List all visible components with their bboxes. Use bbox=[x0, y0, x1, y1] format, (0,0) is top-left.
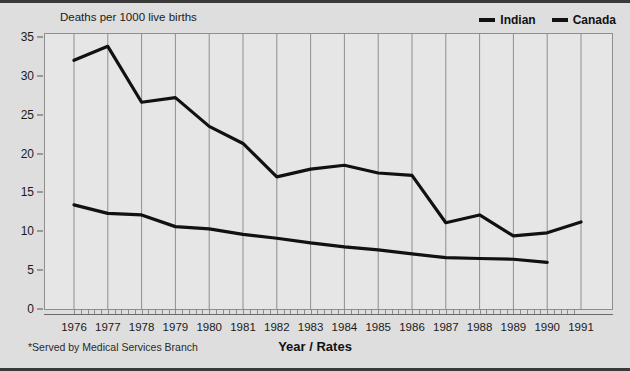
x-minor-tick bbox=[297, 309, 298, 314]
x-minor-tick bbox=[121, 309, 122, 314]
x-minor-tick bbox=[405, 309, 406, 314]
x-minor-tick bbox=[88, 309, 89, 314]
legend-label-indian: Indian bbox=[500, 13, 535, 27]
x-minor-tick bbox=[567, 309, 568, 314]
x-minor-tick bbox=[439, 309, 440, 314]
x-minor-tick bbox=[270, 309, 271, 314]
y-tick-label: 5 bbox=[4, 263, 34, 277]
x-minor-tick bbox=[419, 309, 420, 314]
y-tick-label: 35 bbox=[4, 30, 34, 44]
x-minor-tick bbox=[358, 309, 359, 314]
x-minor-tick bbox=[459, 309, 460, 314]
x-minor-tick bbox=[311, 309, 312, 314]
x-minor-tick bbox=[338, 309, 339, 314]
x-tick-label: 1987 bbox=[433, 321, 459, 333]
y-tick-mark bbox=[37, 192, 43, 193]
x-minor-tick bbox=[162, 309, 163, 314]
plot-area bbox=[44, 33, 613, 310]
x-minor-tick bbox=[540, 309, 541, 314]
y-tick-mark bbox=[37, 114, 43, 115]
x-tick-label: 1981 bbox=[230, 321, 256, 333]
x-tick-label: 1978 bbox=[129, 321, 155, 333]
x-minor-tick bbox=[257, 309, 258, 314]
x-minor-tick bbox=[534, 309, 535, 314]
legend-item-canada: Canada bbox=[552, 13, 616, 27]
x-minor-tick bbox=[182, 309, 183, 314]
x-minor-tick bbox=[243, 309, 244, 314]
chart-legend: Indian Canada bbox=[479, 13, 616, 27]
y-tick-label: 10 bbox=[4, 224, 34, 238]
x-minor-tick bbox=[81, 309, 82, 314]
x-tick-label: 1979 bbox=[163, 321, 189, 333]
x-minor-tick bbox=[155, 309, 156, 314]
x-minor-tick bbox=[486, 309, 487, 314]
legend-swatch-icon bbox=[552, 18, 568, 22]
x-minor-tick bbox=[412, 309, 413, 314]
x-minor-tick bbox=[277, 309, 278, 314]
x-minor-tick bbox=[331, 309, 332, 314]
x-minor-tick bbox=[466, 309, 467, 314]
x-minor-tick bbox=[304, 309, 305, 314]
x-minor-tick bbox=[547, 309, 548, 314]
x-minor-tick bbox=[513, 309, 514, 314]
x-tick-label: 1991 bbox=[568, 321, 594, 333]
y-tick-label: 30 bbox=[4, 69, 34, 83]
y-tick-label: 0 bbox=[4, 302, 34, 316]
x-minor-tick bbox=[223, 309, 224, 314]
x-minor-tick bbox=[108, 309, 109, 314]
x-minor-tick bbox=[175, 309, 176, 314]
x-minor-tick bbox=[189, 309, 190, 314]
x-minor-tick bbox=[554, 309, 555, 314]
x-minor-tick bbox=[507, 309, 508, 314]
x-minor-tick bbox=[101, 309, 102, 314]
x-minor-tick bbox=[74, 309, 75, 314]
x-tick-label: 1983 bbox=[298, 321, 324, 333]
x-minor-tick bbox=[432, 309, 433, 314]
x-minor-tick bbox=[196, 309, 197, 314]
y-tick-label: 25 bbox=[4, 108, 34, 122]
x-minor-tick bbox=[250, 309, 251, 314]
y-tick-mark bbox=[37, 309, 43, 310]
x-tick-label: 1977 bbox=[95, 321, 121, 333]
x-minor-tick bbox=[128, 309, 129, 314]
x-minor-tick bbox=[520, 309, 521, 314]
x-minor-tick bbox=[202, 309, 203, 314]
x-minor-tick bbox=[500, 309, 501, 314]
plot-canvas bbox=[45, 34, 612, 309]
y-tick-mark bbox=[37, 75, 43, 76]
x-minor-tick bbox=[209, 309, 210, 314]
x-tick-label: 1980 bbox=[196, 321, 222, 333]
x-minor-tick bbox=[169, 309, 170, 314]
x-minor-tick bbox=[446, 309, 447, 314]
x-minor-tick bbox=[115, 309, 116, 314]
x-minor-tick bbox=[385, 309, 386, 314]
x-minor-tick bbox=[392, 309, 393, 314]
x-minor-tick bbox=[527, 309, 528, 314]
y-tick-mark bbox=[37, 153, 43, 154]
x-tick-label: 1990 bbox=[534, 321, 560, 333]
legend-item-indian: Indian bbox=[479, 13, 535, 27]
x-tick-label: 1984 bbox=[332, 321, 358, 333]
legend-label-canada: Canada bbox=[573, 13, 616, 27]
x-tick-label: 1976 bbox=[61, 321, 87, 333]
x-minor-tick bbox=[135, 309, 136, 314]
x-minor-tick bbox=[344, 309, 345, 314]
x-minor-tick bbox=[142, 309, 143, 314]
y-tick-mark bbox=[37, 270, 43, 271]
x-minor-tick bbox=[378, 309, 379, 314]
x-tick-label: 1982 bbox=[264, 321, 290, 333]
y-axis-title: Deaths per 1000 live births bbox=[60, 11, 197, 23]
chart-figure: Deaths per 1000 live births Indian Canad… bbox=[0, 0, 630, 371]
x-minor-tick bbox=[94, 309, 95, 314]
x-minor-tick bbox=[317, 309, 318, 314]
x-minor-tick bbox=[480, 309, 481, 314]
y-tick-mark bbox=[37, 37, 43, 38]
chart-footnote: *Served by Medical Services Branch bbox=[28, 341, 198, 353]
x-minor-tick bbox=[493, 309, 494, 314]
x-minor-tick bbox=[263, 309, 264, 314]
x-tick-label: 1988 bbox=[467, 321, 493, 333]
x-minor-tick bbox=[324, 309, 325, 314]
y-tick-mark bbox=[37, 231, 43, 232]
x-minor-tick bbox=[290, 309, 291, 314]
x-minor-tick bbox=[284, 309, 285, 314]
